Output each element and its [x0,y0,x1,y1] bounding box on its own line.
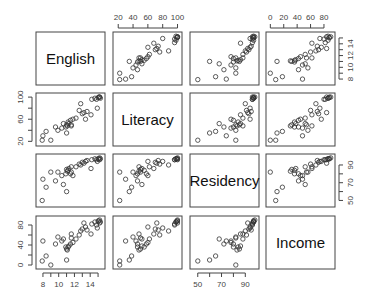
data-point [64,189,68,193]
data-point [274,77,278,81]
data-point [95,106,99,110]
data-point [83,117,87,121]
data-point [296,68,300,72]
variable-label: Residency [189,172,260,189]
data-point [196,138,200,142]
tick-label: 90 [346,160,355,169]
data-point [303,165,307,169]
tick-label: 80 [158,13,167,22]
data-point [241,237,245,241]
tick-label: 90 [241,280,250,289]
data-point [308,108,312,112]
data-point [224,77,228,81]
data-point [53,242,57,246]
data-point [44,185,48,189]
tick-label: 50 [193,280,202,289]
tick-label: 8 [41,280,46,289]
data-point [137,232,141,236]
data-point [41,239,45,243]
data-point [275,59,279,63]
data-point [196,77,200,81]
data-point [308,50,312,54]
data-point [140,182,144,186]
data-point [127,258,131,262]
data-point [304,123,308,127]
data-point [153,227,157,231]
data-point [74,237,78,241]
data-point [268,138,272,142]
data-point [300,126,304,130]
data-point [213,75,217,79]
tick-label: 12 [70,280,79,289]
data-point [329,156,333,160]
data-point [300,63,304,67]
data-point [319,117,323,121]
tick-label: 100 [16,90,25,104]
data-point [318,106,322,110]
data-point [234,71,238,75]
data-point [44,129,48,133]
data-point [246,221,250,225]
data-point [41,134,45,138]
tick-label: 70 [346,178,355,187]
data-point [44,254,48,258]
data-point [306,128,310,132]
data-point [127,59,131,63]
scatterplot-matrix: EnglishLiteracyResidencyIncome2040608010… [0,0,369,303]
data-point [274,138,278,142]
data-point [56,235,60,239]
data-point [207,59,211,63]
data-point [161,226,165,230]
data-point [324,46,328,50]
data-point [280,185,284,189]
data-point [64,131,68,135]
data-point [224,239,228,243]
data-point [310,113,314,117]
data-point [123,77,127,81]
data-point [146,159,150,163]
data-point [118,170,122,174]
data-point [222,68,226,72]
data-point [300,77,304,81]
data-point [222,242,226,246]
tick-label: 20 [114,13,123,22]
data-point [229,63,233,67]
data-point [268,170,272,174]
data-point [49,138,53,142]
data-point [238,113,242,117]
tick-label: 80 [16,220,25,229]
data-point [158,233,162,237]
data-point [95,226,99,230]
data-point [303,116,307,120]
data-point [40,198,44,202]
data-point [318,36,322,40]
data-point [131,235,135,239]
data-point [147,165,151,169]
tick-label: 14 [86,280,95,289]
data-point [300,134,304,138]
data-point [61,182,65,186]
data-point [161,159,165,163]
variable-label: English [46,50,95,67]
data-point [40,259,44,263]
data-point [268,71,272,75]
tick-label: 8 [346,76,355,81]
data-point [166,49,170,53]
data-point [238,41,242,45]
data-point [224,134,228,138]
data-point [146,225,150,229]
data-point [314,102,318,106]
tick-label: 60 [143,13,152,22]
tick-label: 100 [171,13,185,22]
data-point [280,75,284,79]
data-point [156,228,160,232]
data-point [152,41,156,45]
data-point [118,71,122,75]
data-point [217,62,221,66]
data-point [275,131,279,135]
data-point [222,125,226,129]
data-point [314,163,318,167]
data-point [129,75,133,79]
data-point [56,170,60,174]
data-point [243,102,247,106]
